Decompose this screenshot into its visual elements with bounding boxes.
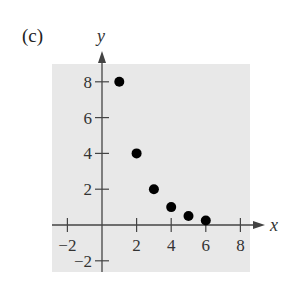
- y-tick-label: 6: [84, 109, 93, 128]
- y-tick-label: 8: [84, 73, 93, 92]
- x-tick-label: 6: [202, 236, 211, 255]
- y-axis-arrow-icon: [98, 51, 106, 63]
- plot-background: [52, 64, 250, 272]
- x-axis-arrow-icon: [253, 221, 265, 229]
- y-axis-label: y: [95, 26, 105, 46]
- data-point: [149, 184, 159, 194]
- x-tick-label: 4: [167, 236, 176, 255]
- x-tick-label: 8: [236, 236, 245, 255]
- y-tick-label: −2: [74, 252, 92, 271]
- data-point: [114, 77, 124, 87]
- scatter-chart: xy−22468−22468: [0, 0, 281, 284]
- data-point: [166, 202, 176, 212]
- y-tick-label: 4: [84, 144, 93, 163]
- data-point: [201, 216, 211, 226]
- x-tick-label: 2: [132, 236, 141, 255]
- data-point: [132, 148, 142, 158]
- data-point: [184, 211, 194, 221]
- x-axis-label: x: [269, 215, 278, 235]
- y-tick-label: 2: [84, 180, 93, 199]
